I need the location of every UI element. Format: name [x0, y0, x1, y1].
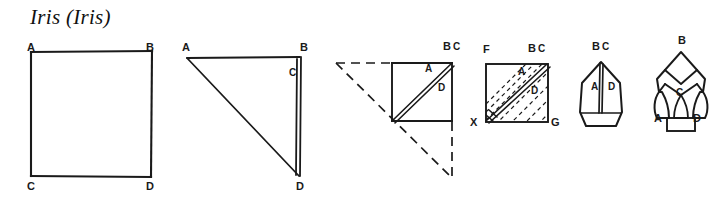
step-6-label-a: A: [654, 113, 662, 124]
step-6-label-d: D: [693, 113, 701, 124]
step-6-label-c: C: [676, 88, 683, 98]
origami-instruction-sheet: Iris (Iris) A B C D A B C D: [0, 0, 725, 205]
step-6-label-b: B: [678, 35, 686, 46]
step-6-base: [667, 118, 695, 131]
step-6-diagram: [0, 0, 725, 205]
step-6-top-petal: [665, 52, 697, 84]
step-6-center-petal: [674, 95, 688, 118]
